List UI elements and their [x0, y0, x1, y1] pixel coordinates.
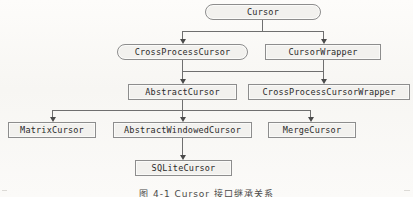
node-cross-process-cursor-wrapper[interactable]: CrossProcessCursorWrapper — [248, 84, 410, 100]
node-merge-cursor-label: MergeCursor — [283, 125, 342, 134]
node-cross-process-cursor-wrapper-label: CrossProcessCursorWrapper — [263, 87, 396, 96]
node-matrix-cursor-label: MatrixCursor — [20, 125, 84, 134]
node-cursor[interactable]: Cursor — [205, 4, 321, 20]
node-abstract-windowed-cursor-label: AbstractWindowedCursor — [124, 125, 241, 134]
figure-caption: 图 4-1 Cursor 接口继承关系 — [0, 187, 413, 197]
node-abstract-cursor-label: AbstractCursor — [145, 87, 219, 96]
node-abstract-windowed-cursor[interactable]: AbstractWindowedCursor — [113, 122, 252, 138]
node-matrix-cursor[interactable]: MatrixCursor — [8, 122, 96, 138]
node-cursor-label: Cursor — [247, 7, 279, 16]
node-cursor-wrapper[interactable]: CursorWrapper — [265, 44, 381, 60]
node-cursor-wrapper-label: CursorWrapper — [288, 47, 357, 56]
node-sqlite-cursor[interactable]: SQLiteCursor — [135, 160, 232, 176]
node-merge-cursor[interactable]: MergeCursor — [268, 122, 356, 138]
node-cross-process-cursor-label: CrossProcessCursor — [135, 47, 231, 56]
node-cross-process-cursor[interactable]: CrossProcessCursor — [117, 44, 248, 60]
figure-canvas: Cursor CrossProcessCursor CursorWrapper … — [0, 0, 413, 197]
node-sqlite-cursor-label: SQLiteCursor — [152, 163, 216, 172]
node-layer: Cursor CrossProcessCursor CursorWrapper … — [0, 0, 413, 197]
node-abstract-cursor[interactable]: AbstractCursor — [128, 84, 237, 100]
